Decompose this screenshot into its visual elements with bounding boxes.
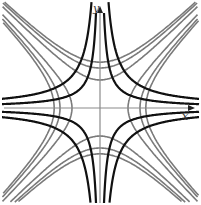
hyperbola-curve [109,2,200,99]
y-axis-label: y [92,2,100,15]
hyperbola-diagram: x y [0,0,201,205]
x-axis-label: x [182,110,189,123]
hyperbola-curve [2,2,92,99]
x-axis-arrow-icon [188,105,195,111]
